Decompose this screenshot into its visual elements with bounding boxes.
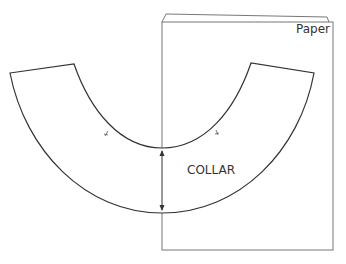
pattern-diagram [0,0,346,264]
paper-back-sheet [162,14,329,22]
collar-label: COLLAR [187,163,235,177]
paper-label: Paper [296,22,330,36]
